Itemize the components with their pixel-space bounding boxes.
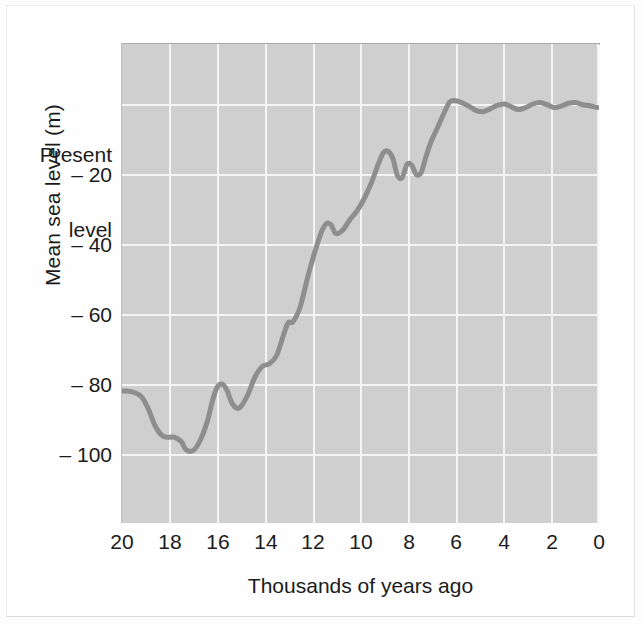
x-tick-8: 8 [387,530,431,554]
x-tick-14: 14 [244,530,288,554]
y-tick-minus-80: – 80 [71,372,112,397]
x-axis-title: Thousands of years ago [122,574,599,598]
y-tick-minus-20: – 20 [71,162,112,187]
x-tick-2: 2 [530,530,574,554]
sea-level-curve [122,44,599,523]
x-tick-12: 12 [291,530,335,554]
sea-level-curve-path [122,100,597,451]
x-tick-18: 18 [148,530,192,554]
y-tick-minus-60: – 60 [71,302,112,327]
figure-root: Mean sea level (m) Present level – 20 – … [0,0,643,624]
x-tick-16: 16 [196,530,240,554]
y-tick-present-level: Present level [40,92,112,292]
y-axis-tick-labels: Present level – 20 – 40 – 60 – 80 – 100 [0,0,112,560]
x-tick-20: 20 [100,530,144,554]
y-tick-minus-40: – 40 [71,232,112,257]
x-tick-6: 6 [434,530,478,554]
x-tick-4: 4 [482,530,526,554]
y-tick-minus-100: – 100 [59,442,112,467]
x-axis-tick-labels: 20 18 16 14 12 10 8 6 4 2 0 [122,530,599,560]
x-tick-10: 10 [339,530,383,554]
x-tick-0: 0 [577,530,621,554]
plot-area [122,44,599,523]
